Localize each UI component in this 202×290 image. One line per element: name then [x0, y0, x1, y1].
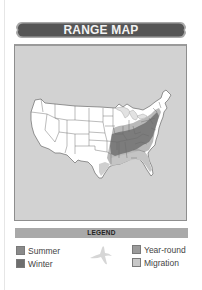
summer-swatch-icon	[16, 246, 25, 255]
range-map-banner: RANGE MAP	[14, 21, 188, 39]
banner-title: RANGE MAP	[14, 21, 188, 39]
range-map-panel	[14, 44, 187, 221]
legend-label-migration: Migration	[144, 258, 179, 268]
legend-label-winter: Winter	[28, 259, 53, 269]
us-range-map	[15, 46, 186, 221]
legend-item-migration: Migration	[132, 257, 179, 268]
page-edge-rule	[4, 0, 5, 290]
legend-header: LEGEND	[15, 228, 188, 238]
legend-item-year-round: Year-round	[132, 244, 186, 255]
migration-swatch-icon	[132, 258, 141, 267]
legend-label-summer: Summer	[28, 246, 60, 256]
year-round-swatch-icon	[132, 245, 141, 254]
legend-item-winter: Winter	[16, 258, 53, 269]
legend-label-year-round: Year-round	[144, 245, 186, 255]
legend-item-summer: Summer	[16, 245, 60, 256]
bird-silhouette-icon	[88, 243, 114, 271]
winter-swatch-icon	[16, 259, 25, 268]
